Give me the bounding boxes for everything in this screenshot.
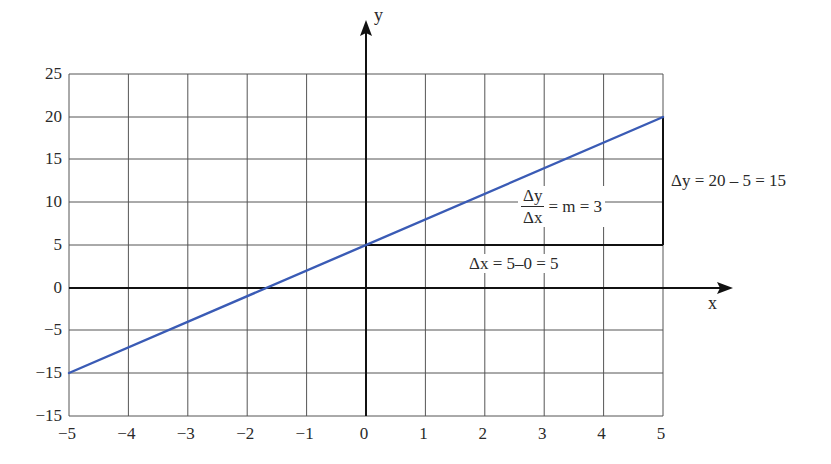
x-tick-label: 5 [641, 425, 681, 442]
y-tick-label: 15 [2, 150, 62, 167]
y-axis-label: y [374, 6, 383, 24]
x-tick-label: −4 [106, 425, 146, 442]
slope-fraction: Δy Δx [521, 187, 544, 226]
y-tick-label: 5 [2, 236, 62, 253]
slope-value: = m = 3 [548, 197, 602, 216]
x-tick-label: −1 [285, 425, 325, 442]
y-tick-label: 0 [2, 279, 62, 296]
slope-numerator: Δy [521, 187, 544, 207]
x-tick-label: 3 [522, 425, 562, 442]
x-axis-label: x [708, 294, 717, 312]
x-tick-label: 1 [403, 425, 443, 442]
y-tick-label: 20 [2, 108, 62, 125]
plot-area [0, 0, 831, 464]
x-tick-label: −3 [166, 425, 206, 442]
y-tick-label: −15 [2, 364, 62, 381]
y-tick-label: 25 [2, 65, 62, 82]
slope-chart: 2520151050−5−15−15 −5−4−3−2−1012345 y x … [0, 0, 831, 464]
axes [69, 20, 733, 416]
y-tick-label: 10 [2, 193, 62, 210]
slope-denominator: Δx [521, 207, 544, 226]
delta-y-annotation: Δy = 20 – 5 = 15 [668, 171, 789, 190]
delta-x-annotation: Δx = 5–0 = 5 [466, 254, 562, 273]
x-tick-label: 0 [344, 425, 384, 442]
x-tick-label: −2 [225, 425, 265, 442]
y-tick-label: −15 [2, 407, 62, 424]
x-tick-label: 4 [582, 425, 622, 442]
x-tick-label: −5 [47, 425, 87, 442]
y-tick-label: −5 [2, 321, 62, 338]
slope-annotation: Δy Δx = m = 3 [518, 186, 605, 227]
x-tick-label: 2 [463, 425, 503, 442]
